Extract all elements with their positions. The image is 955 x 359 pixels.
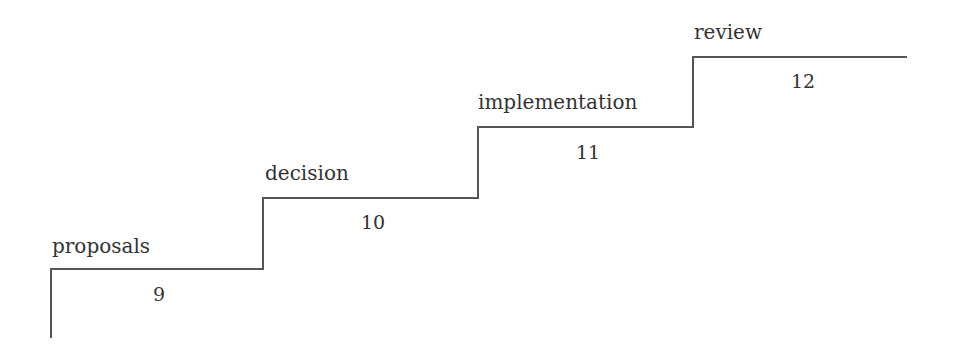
- staircase-diagram: [0, 0, 955, 359]
- step-number-11: 11: [576, 143, 600, 162]
- step-label-decision: decision: [265, 163, 349, 183]
- step-label-implementation: implementation: [478, 92, 637, 112]
- step-number-10: 10: [361, 213, 385, 232]
- step-label-review: review: [694, 22, 762, 42]
- step-label-proposals: proposals: [52, 236, 150, 256]
- step-number-9: 9: [153, 285, 165, 304]
- step-number-12: 12: [791, 72, 815, 91]
